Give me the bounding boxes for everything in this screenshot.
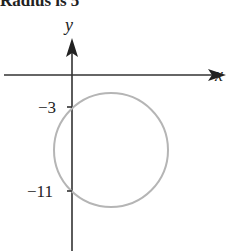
y-axis-label: y bbox=[63, 15, 73, 35]
y-tick-label-neg11: −11 bbox=[27, 182, 53, 201]
coordinate-diagram: x y −3 −11 bbox=[0, 0, 232, 251]
circle-graph bbox=[54, 93, 168, 207]
x-axis-label: x bbox=[214, 65, 223, 85]
y-tick-label-neg3: −3 bbox=[38, 98, 56, 117]
